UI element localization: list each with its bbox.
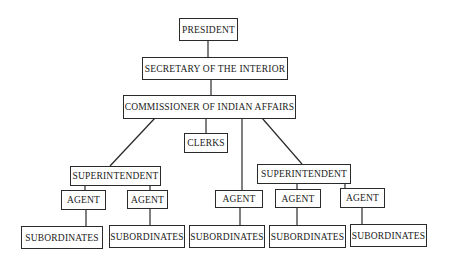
node-agent-5: AGENT: [340, 188, 385, 208]
node-subordinates-3: SUBORDINATES: [189, 225, 265, 248]
node-agent-2: AGENT: [127, 190, 168, 209]
node-agent-4: AGENT: [275, 189, 321, 208]
node-subordinates-4: SUBORDINATES: [269, 225, 346, 248]
node-subordinates-5: SUBORDINATES: [350, 224, 427, 247]
node-agent-1: AGENT: [61, 190, 106, 210]
node-commissioner-of-indian-affairs: COMMISSIONER OF INDIAN AFFAIRS: [123, 95, 296, 119]
node-superintendent-left: SUPERINTENDENT: [70, 166, 161, 186]
node-superintendent-right: SUPERINTENDENT: [257, 164, 351, 184]
node-clerks: CLERKS: [184, 133, 228, 153]
node-president: PRESIDENT: [179, 18, 238, 41]
node-secretary-of-interior: SECRETARY OF THE INTERIOR: [142, 57, 288, 80]
node-subordinates-2: SUBORDINATES: [109, 225, 185, 248]
node-subordinates-1: SUBORDINATES: [21, 226, 103, 249]
node-agent-3: AGENT: [215, 190, 263, 208]
org-chart: PRESIDENT SECRETARY OF THE INTERIOR COMM…: [0, 0, 451, 263]
